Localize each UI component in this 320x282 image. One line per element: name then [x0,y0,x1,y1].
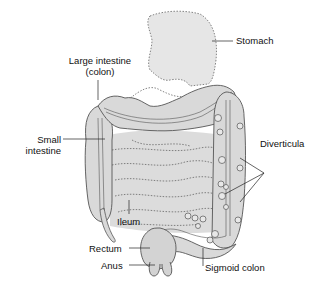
stomach-shape [148,11,217,86]
label-large-intestine-line1: Large intestine [63,55,137,66]
label-diverticula: Diverticula [260,138,304,149]
label-ileum: Ileum [117,216,140,227]
label-large-intestine-line2: (colon) [63,66,137,77]
label-stomach: Stomach [236,35,274,46]
label-small-intestine: Small intestine [14,134,61,156]
label-rectum: Rectum [89,243,122,254]
label-sigmoid-colon: Sigmoid colon [205,262,265,273]
label-large-intestine: Large intestine (colon) [63,55,137,77]
label-small-intestine-line2: intestine [14,145,61,156]
label-small-intestine-line1: Small [14,134,61,145]
label-anus: Anus [101,260,123,271]
